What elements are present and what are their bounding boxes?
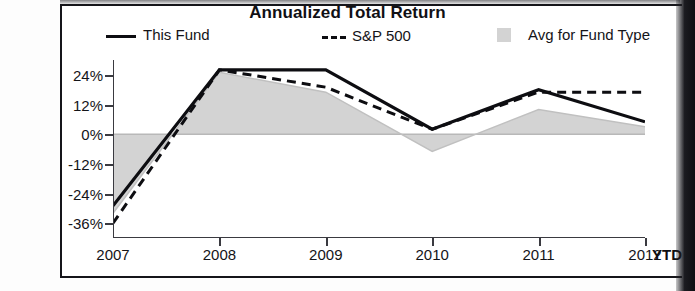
y-axis-tick-label: -12% bbox=[31, 155, 103, 172]
legend-label-sp-500: S&P 500 bbox=[352, 27, 411, 44]
x-axis-tick-label: 2010 bbox=[416, 246, 449, 263]
y-axis-tick bbox=[105, 194, 113, 196]
x-axis-tick bbox=[219, 238, 221, 246]
x-axis-tick-label: 2008 bbox=[203, 246, 236, 263]
y-axis-tick bbox=[105, 164, 113, 166]
x-axis-tick-label: 2009 bbox=[309, 246, 342, 263]
y-axis-tick bbox=[105, 75, 113, 77]
legend-label-avg-fund-type: Avg for Fund Type bbox=[528, 26, 650, 43]
legend-swatch-this-fund bbox=[106, 35, 136, 38]
series-line-this-fund bbox=[113, 70, 645, 206]
x-axis-tick bbox=[645, 238, 647, 246]
y-axis-tick bbox=[105, 134, 113, 136]
legend-label-this-fund: This Fund bbox=[143, 26, 210, 43]
y-axis-tick bbox=[105, 105, 113, 107]
y-axis-tick-label: -36% bbox=[31, 215, 103, 232]
y-axis-tick-label: 0% bbox=[31, 126, 103, 143]
x-axis-tick bbox=[432, 238, 434, 246]
legend-swatch-sp-500 bbox=[322, 36, 346, 39]
chart-screenshot: Annualized Total Return This Fund S&P 50… bbox=[0, 0, 695, 291]
y-axis-tick bbox=[105, 223, 113, 225]
scan-edge-band-right bbox=[676, 0, 695, 291]
plot-area bbox=[113, 60, 645, 238]
y-axis-tick-label: 12% bbox=[31, 96, 103, 113]
chart-canvas bbox=[113, 60, 645, 238]
x-axis-tick-label: 2011 bbox=[522, 246, 554, 263]
x-axis-tick bbox=[326, 238, 328, 246]
series-line-sp-500 bbox=[113, 70, 645, 223]
y-axis-tick-label: -24% bbox=[31, 185, 103, 202]
legend-swatch-avg-fund-type bbox=[497, 28, 511, 42]
x-axis-tick-label: 2007 bbox=[96, 246, 129, 263]
y-axis-tick-label: 24% bbox=[31, 66, 103, 83]
x-axis-tick bbox=[539, 238, 541, 246]
chart-title: Annualized Total Return bbox=[0, 3, 695, 23]
